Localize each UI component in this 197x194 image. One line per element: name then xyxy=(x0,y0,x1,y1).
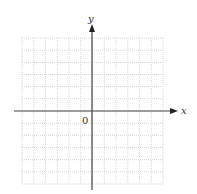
coordinate-plane: y x 0 xyxy=(0,0,197,194)
y-axis-arrow-icon xyxy=(89,24,95,32)
x-axis-arrow-icon xyxy=(170,108,178,114)
y-axis-label: y xyxy=(87,13,94,24)
origin-label: 0 xyxy=(82,115,88,126)
x-axis-label: x xyxy=(181,105,187,116)
